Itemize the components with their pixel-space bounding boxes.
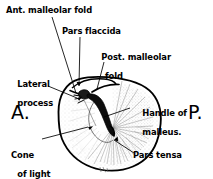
- label-post-malleolar-fold-line2: fold: [90, 72, 171, 82]
- label-lateral-process-line1: Lateral: [17, 79, 50, 89]
- orientation-marker-anterior: A.: [11, 103, 30, 122]
- label-post-malleolar-fold-line1: Post. malleolar: [101, 52, 171, 62]
- label-ant-malleolar-fold: Ant. malleolar fold: [6, 6, 92, 16]
- label-pars-tensa: Pars tensa: [133, 151, 182, 161]
- label-handle-of-malleus: Handle of malleus.: [131, 99, 187, 147]
- tympanic-membrane-figure: Ant. malleolar fold Pars flaccida Post. …: [0, 0, 213, 179]
- label-cone-of-light-line1: Cone: [6, 151, 50, 161]
- label-handle-of-malleus-line2: malleus.: [142, 127, 181, 137]
- label-cone-of-light-line2: of light: [17, 169, 50, 179]
- label-handle-of-malleus-line1: Handle of: [142, 108, 187, 118]
- orientation-marker-posterior: P.: [188, 103, 203, 122]
- label-cone-of-light: Cone of light: [6, 132, 50, 179]
- label-pars-flaccida: Pars flaccida: [62, 27, 121, 37]
- label-post-malleolar-fold: Post. malleolar fold: [90, 43, 171, 101]
